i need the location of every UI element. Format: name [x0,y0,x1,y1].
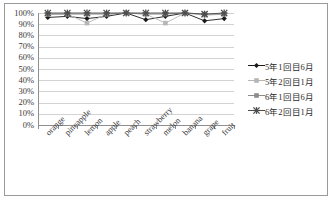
data-point-diamond [222,16,227,21]
chart-legend: 5年1回目6月5年2回目1月6年1回目6月6年2回目1月 [248,58,328,118]
data-point-star [221,10,228,17]
data-point-diamond [202,18,207,23]
legend-item[interactable]: 6年1回目6月 [248,88,328,103]
data-point-diamond [143,17,148,22]
data-point-star [84,10,91,17]
legend-item[interactable]: 6年2回目1月 [248,103,328,118]
legend-marker-icon [248,105,265,116]
data-point-star [103,10,110,17]
chart-screenshot: 100%90%80%70%60%50%40%30%20%10%0% orange… [0,0,333,200]
data-point-star [64,10,71,17]
data-point-square-light [163,21,168,26]
legend-label: 6年1回目6月 [265,90,314,102]
legend-label: 5年2回目1月 [265,75,314,87]
data-point-diamond [254,63,259,68]
data-point-square-light [85,21,90,26]
legend-marker-icon [248,90,265,101]
data-point-star [44,10,51,17]
data-point-diamond [84,16,89,21]
data-point-star [123,10,130,17]
legend-item[interactable]: 5年2回目1月 [248,73,328,88]
plot-area [38,13,234,125]
data-point-star [253,107,260,114]
legend-marker-icon [248,60,265,71]
data-point-star [182,10,189,17]
data-point-square [254,93,259,98]
series-line [45,10,227,23]
legend-item[interactable]: 5年1回目6月 [248,58,328,73]
legend-marker-icon [248,75,265,86]
data-point-star [201,11,208,18]
legend-label: 5年1回目6月 [265,60,314,72]
data-point-square-light [254,78,259,83]
data-point-star [142,10,149,17]
data-point-star [162,10,169,17]
legend-label: 6年2回目1月 [265,105,314,117]
